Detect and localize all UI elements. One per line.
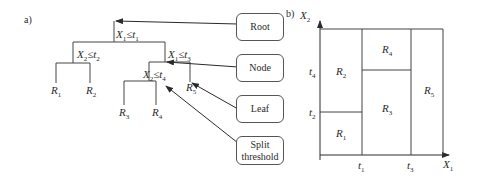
leaf-r2: R2 <box>86 85 96 99</box>
node-box: Node <box>236 54 284 82</box>
x-tick-t1: t1 <box>358 160 365 174</box>
right-split-label: X1≤t3 <box>168 49 191 63</box>
root-split-label: X1≤t1 <box>116 29 139 43</box>
leaf-r3: R3 <box>119 107 129 121</box>
left-split-label: X2≤t2 <box>77 49 100 63</box>
y-tick-t4: t4 <box>309 66 316 80</box>
split-threshold-box: Splitthreshold <box>236 136 284 165</box>
region-r4: R4 <box>382 44 392 58</box>
region-r3: R3 <box>382 103 392 117</box>
region-r1: R1 <box>336 128 346 142</box>
leaf-box: Leaf <box>236 95 284 123</box>
y-axis-label: X2 <box>300 10 310 24</box>
y-tick-t2: t2 <box>309 107 316 121</box>
panel-a-label: a) <box>24 14 32 25</box>
leaf-r5: R5 <box>186 82 196 96</box>
leaf-r4: R4 <box>152 107 162 121</box>
x-tick-t3: t3 <box>407 160 414 174</box>
region-r2: R2 <box>336 66 346 80</box>
region-r5: R5 <box>424 85 434 99</box>
panel-b-label: b) <box>286 8 294 19</box>
leaf-r1: R1 <box>51 85 61 99</box>
root-box: Root <box>236 13 284 41</box>
inner-split-label: X2≤t4 <box>143 69 166 83</box>
x-axis-label: X1 <box>443 159 453 173</box>
